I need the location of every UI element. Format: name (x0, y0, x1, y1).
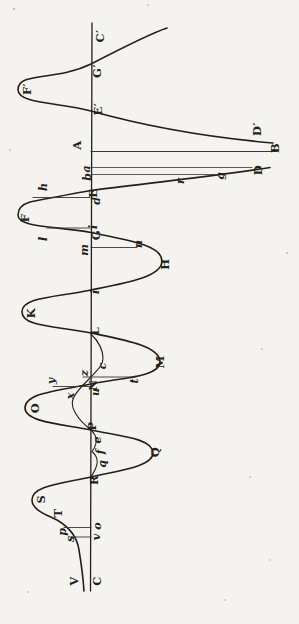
label-o: o (92, 522, 103, 529)
label-p: p (57, 528, 68, 536)
label-b: b (82, 173, 93, 181)
label-S: S (36, 495, 48, 504)
label-Q: Q (150, 447, 162, 458)
label-m: m (79, 244, 90, 256)
label-u: u (90, 388, 101, 396)
label-C: C (92, 576, 104, 586)
label-d: d (91, 197, 102, 205)
label-x: x (65, 393, 76, 400)
label-F-prime: F′ (22, 83, 34, 95)
label-e: e (92, 437, 103, 444)
label-B: B (270, 143, 282, 153)
label-V: V (69, 576, 81, 585)
label-layer: C′G′F′E′D′BADabgrhEdFiGlnmHiKLMcztyNuxOP… (0, 0, 299, 624)
label-T: T (53, 508, 65, 517)
label-i-1: i (88, 225, 99, 229)
label-A: A (72, 140, 84, 149)
label-R: R (89, 475, 101, 485)
label-i-2: i (90, 290, 101, 294)
label-F: F (20, 214, 32, 223)
label-c: c (97, 363, 108, 370)
label-D-prime: D′ (252, 122, 264, 136)
label-a: a (81, 165, 92, 172)
label-r: r (175, 178, 186, 184)
label-O: O (30, 403, 42, 414)
label-E-prime: E′ (93, 103, 105, 116)
label-P: P (87, 421, 99, 430)
label-v: v (91, 534, 102, 540)
label-G-prime: G′ (92, 64, 104, 78)
label-t: t (129, 378, 140, 383)
label-y: y (46, 378, 57, 384)
label-l: l (38, 237, 49, 241)
label-g: g (215, 172, 226, 180)
label-H: H (160, 258, 172, 269)
label-D: D (253, 165, 265, 175)
label-z: z (79, 370, 90, 376)
label-K: K (26, 308, 38, 319)
label-q: q (97, 460, 108, 468)
label-s: s (65, 536, 76, 542)
label-n: n (133, 240, 144, 248)
label-L: L (90, 327, 102, 336)
label-M: M (155, 355, 167, 368)
figure-page: C′G′F′E′D′BADabgrhEdFiGlnmHiKLMcztyNuxOP… (0, 0, 299, 624)
label-h: h (38, 183, 49, 191)
label-C-prime: C′ (95, 29, 107, 42)
label-G: G (91, 230, 103, 240)
label-f: f (95, 450, 106, 455)
